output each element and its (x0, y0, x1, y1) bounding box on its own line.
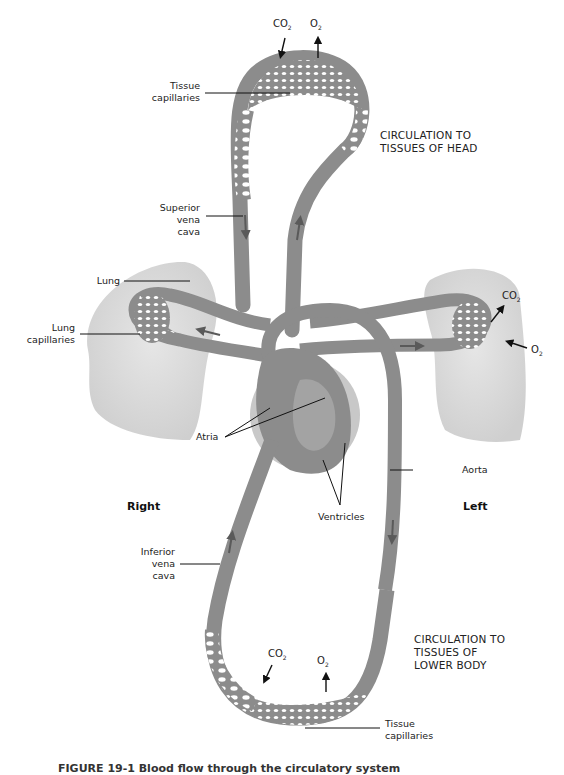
lung-capillaries-label: Lung capillaries (15, 322, 75, 346)
label-line: TISSUES OF (414, 646, 524, 659)
figure-caption: FIGURE 19-1 Blood flow through the circu… (58, 762, 400, 775)
label-line: vena (115, 558, 175, 570)
label-line: Inferior (115, 546, 175, 558)
label-line: cava (140, 226, 200, 238)
lower-co2-label: CO2 (268, 648, 287, 661)
lung-label: Lung (70, 275, 120, 287)
label-line: Aorta (462, 464, 488, 475)
label-line: Tissue (140, 80, 200, 92)
label-line: Atria (196, 431, 218, 442)
lower-body-loop (212, 440, 387, 725)
label-line: CIRCULATION TO (414, 633, 524, 646)
co2-subscript: 2 (517, 296, 521, 303)
o2-subscript: 2 (325, 661, 329, 668)
aorta-label: Aorta (462, 464, 488, 476)
label-line: CIRCULATION TO (380, 129, 490, 142)
co2-text: CO (502, 290, 517, 301)
label-line: capillaries (140, 92, 200, 104)
label-line: cava (115, 570, 175, 582)
co2-subscript: 2 (283, 654, 287, 661)
label-line: Superior (140, 202, 200, 214)
label-line: vena (140, 214, 200, 226)
co2-text: CO (273, 18, 288, 29)
co2-text: CO (268, 648, 283, 659)
lower-tissue-capillaries-label: Tissue capillaries (385, 718, 433, 742)
co2-subscript: 2 (288, 24, 292, 31)
superior-vena-cava-label: Superior vena cava (140, 202, 200, 238)
label-line: capillaries (15, 334, 75, 346)
label-line: Left (463, 500, 488, 513)
lung-co2-label: CO2 (502, 290, 521, 303)
o2-text: O (310, 18, 318, 29)
head-circulation-label: CIRCULATION TO TISSUES OF HEAD (380, 129, 490, 155)
lower-o2-label: O2 (317, 655, 329, 668)
label-line: capillaries (385, 730, 433, 742)
label-line: Right (127, 500, 160, 513)
head-capillary-loop (238, 58, 362, 330)
left-side-label: Left (463, 500, 488, 513)
label-line: TISSUES OF HEAD (380, 142, 490, 155)
label-line: Lung (97, 275, 120, 286)
o2-subscript: 2 (318, 24, 322, 31)
head-o2-label: O2 (310, 18, 322, 31)
label-line: Lung (15, 322, 75, 334)
o2-subscript: 2 (539, 350, 543, 357)
lung-o2-label: O2 (531, 344, 543, 357)
atria-label: Atria (196, 431, 218, 443)
o2-text: O (531, 344, 539, 355)
ventricles-label: Ventricles (318, 511, 365, 523)
right-side-label: Right (127, 500, 160, 513)
inferior-vena-cava-label: Inferior vena cava (115, 546, 175, 582)
label-line: LOWER BODY (414, 659, 524, 672)
head-tissue-capillaries-label: Tissue capillaries (140, 80, 200, 104)
lower-body-circulation-label: CIRCULATION TO TISSUES OF LOWER BODY (414, 633, 524, 672)
o2-text: O (317, 655, 325, 666)
head-co2-label: CO2 (273, 18, 292, 31)
label-line: Ventricles (318, 511, 365, 522)
label-line: Tissue (385, 718, 433, 730)
